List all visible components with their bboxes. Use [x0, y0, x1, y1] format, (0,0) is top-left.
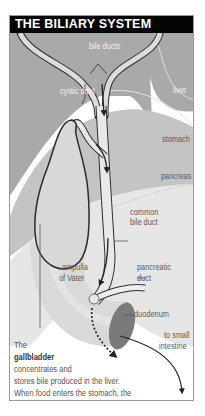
caption-gallbladder: gallbladder: [14, 352, 54, 362]
diagram-frame: THE BILIARY SYSTEM: [9, 15, 194, 401]
caption-line-5: When food enters the stomach, the: [14, 387, 165, 399]
gallbladder-caption: The gallbladder concentrates and stores …: [14, 339, 165, 401]
label-pancreas: pancreas: [161, 171, 191, 181]
label-ampulla-1: ampulla: [62, 262, 88, 272]
label-common-bile-duct-2: bile duct: [130, 217, 157, 227]
label-bile-ducts: bile ducts: [89, 41, 120, 51]
caption-line-6: gallbladder squeezes bile into the cysti…: [14, 399, 165, 401]
caption-line-3: concentrates and: [14, 363, 165, 375]
label-to-small-intestine-1: to small: [164, 330, 189, 340]
label-duodenum: duodenum: [134, 309, 169, 319]
diagram-title: THE BILIARY SYSTEM: [15, 17, 151, 31]
label-pancreatic-duct-2: duct: [137, 273, 151, 283]
label-liver: liver: [173, 85, 187, 95]
label-pancreatic-duct-1: pancreatic: [137, 262, 171, 272]
caption-line-4: stores bile produced in the liver.: [14, 375, 165, 387]
label-common-bile-duct-1: common: [130, 207, 158, 217]
label-cystic-duct: cystic duct: [60, 86, 94, 96]
label-ampulla-2: of Vater: [59, 273, 84, 283]
caption-line-1: The: [14, 339, 165, 351]
ampulla-of-vater: [89, 294, 99, 304]
label-stomach: stomach: [162, 134, 190, 144]
title-bar: THE BILIARY SYSTEM: [10, 16, 193, 33]
